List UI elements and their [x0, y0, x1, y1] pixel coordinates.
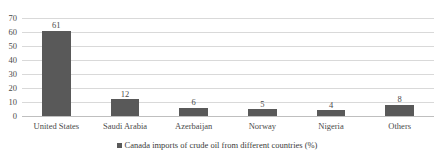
y-axis-tick-label: 50: [9, 42, 18, 51]
x-axis-tick-label: Nigeria: [297, 119, 366, 133]
x-axis-tick-label: Saudi Arabia: [91, 119, 160, 133]
y-axis-tick-label: 60: [9, 28, 18, 37]
legend: Canada imports of crude oil from differe…: [0, 138, 434, 152]
bar[interactable]: 12: [111, 99, 140, 116]
bar-value-label: 5: [260, 100, 264, 109]
bar-value-label: 61: [52, 21, 61, 30]
bar-value-label: 4: [329, 101, 333, 110]
y-axis-tick-label: 30: [9, 70, 18, 79]
bar[interactable]: 8: [385, 105, 414, 116]
bar-slot: 8: [365, 18, 434, 116]
y-axis: 706050403020100: [0, 18, 20, 116]
bar-value-label: 6: [192, 98, 196, 107]
bar-value-label: 12: [121, 90, 130, 99]
y-axis-tick-label: 70: [9, 14, 18, 23]
y-axis-tick-label: 0: [13, 112, 17, 121]
bar-slot: 5: [228, 18, 297, 116]
bar[interactable]: 61: [42, 31, 71, 116]
bar[interactable]: 5: [248, 109, 277, 116]
bar-value-label: 8: [398, 95, 402, 104]
y-axis-tick-label: 10: [9, 98, 18, 107]
x-axis-tick-label: Others: [365, 119, 434, 133]
y-axis-tick-label: 20: [9, 84, 18, 93]
x-axis-tick-label: Norway: [228, 119, 297, 133]
bar-slot: 4: [297, 18, 366, 116]
bar-chart: 706050403020100 61126548 United StatesSa…: [0, 0, 434, 155]
bar-slot: 6: [159, 18, 228, 116]
x-axis-tick-label: United States: [22, 119, 91, 133]
bar[interactable]: 4: [317, 110, 346, 116]
y-axis-tick-label: 40: [9, 56, 18, 65]
bar-slot: 12: [91, 18, 160, 116]
plot-area: 61126548: [22, 18, 434, 116]
square-swatch-icon: [117, 143, 122, 148]
x-axis-tick-label: Azerbaijan: [159, 119, 228, 133]
x-axis: United StatesSaudi ArabiaAzerbaijanNorwa…: [22, 119, 434, 133]
legend-label: Canada imports of crude oil from differe…: [125, 141, 318, 150]
axis-baseline: [22, 116, 434, 117]
bar[interactable]: 6: [179, 108, 208, 116]
bar-series: 61126548: [22, 18, 434, 116]
bar-slot: 61: [22, 18, 91, 116]
